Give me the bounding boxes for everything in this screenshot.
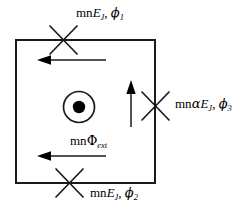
flux-prefix: mn	[70, 133, 87, 148]
junction-3-prefix: mn	[175, 96, 192, 111]
current-arrow-lower	[37, 151, 106, 161]
junction-2-label: mnEJ, ϕ2	[90, 186, 138, 199]
flux-symbol-sub: ext	[97, 140, 107, 150]
junction-2-prefix: mn	[90, 185, 107, 200]
flux-out-of-page-symbol	[64, 92, 95, 123]
junction-2-energy: E	[107, 185, 115, 200]
external-flux-label: mnΦext	[70, 134, 107, 147]
figure-canvas: mnEJ, ϕ1 mnαEJ, ϕ3 mnEJ, ϕ2 mnΦext	[0, 0, 248, 208]
junction-1-phase-sub: 1	[120, 12, 124, 22]
junction-3-phase-sub: 3	[228, 103, 232, 113]
junction-2-energy-sub: J	[115, 192, 119, 202]
junction-2-phase: ϕ	[125, 185, 134, 200]
junction-1-prefix: mn	[76, 5, 93, 20]
junction-3-label: mnαEJ, ϕ3	[175, 97, 232, 110]
junction-1-label: mnEJ, ϕ1	[76, 6, 124, 19]
squid-loop-rect	[16, 40, 155, 183]
junction-1-energy: E	[93, 5, 101, 20]
flux-dot	[73, 101, 85, 113]
junction-1-phase: ϕ	[111, 5, 120, 20]
junction-1-energy-sub: J	[101, 12, 105, 22]
current-arrow-upper	[37, 55, 106, 65]
junction-2-phase-sub: 2	[134, 192, 138, 202]
flux-symbol-glyph: Φ	[87, 133, 98, 148]
junction-3-phase: ϕ	[219, 96, 228, 111]
current-arrow-vertical	[126, 80, 135, 127]
junction-3-energy-sub: J	[208, 103, 212, 113]
